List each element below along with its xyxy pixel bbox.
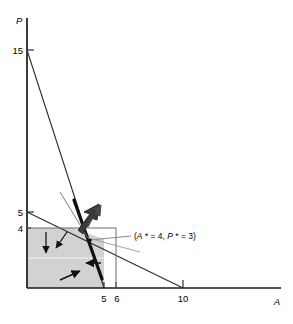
ytick-label-5: 5	[18, 207, 23, 218]
equilibrium-annotation: (A * = 4, P * = 3)	[134, 231, 196, 241]
xtick-label-5: 5	[101, 293, 106, 304]
xtick-label-10: 10	[178, 293, 189, 304]
annot-mid: * = 4,	[143, 231, 168, 241]
annot-close: * = 3)	[173, 231, 196, 241]
xtick-label-6: 6	[114, 293, 119, 304]
y-axis-label: P	[16, 15, 23, 26]
chart-figure: P A 15 5 4 5 6 10 (A * = 4, P * = 3)	[0, 0, 293, 324]
ytick-label-15: 15	[12, 45, 23, 56]
x-axis-label: A	[273, 296, 280, 307]
ytick-label-4: 4	[18, 223, 23, 234]
economics-constraint-plot: P A 15 5 4 5 6 10 (A * = 4, P * = 3)	[0, 0, 293, 324]
